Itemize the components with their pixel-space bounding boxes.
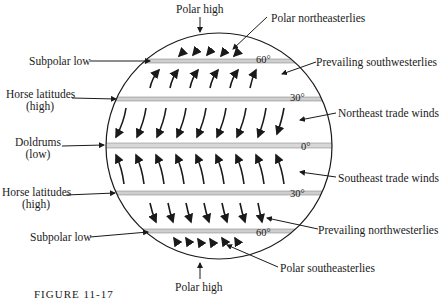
lat-60n: 60°	[256, 54, 271, 65]
label-prevailing-southwesterlies: Prevailing southwesterlies	[316, 56, 437, 68]
lat-60s: 60°	[256, 227, 271, 238]
label-sub: (low)	[14, 148, 62, 160]
lat-0: 0°	[301, 141, 310, 152]
lat-30s: 30°	[290, 188, 305, 199]
label-polar-high-south: Polar high	[175, 281, 223, 293]
label-polar-high-north: Polar high	[176, 3, 224, 15]
label-text: Doldrums	[14, 136, 62, 148]
label-sub: (high)	[6, 100, 74, 112]
figure-caption: FIGURE 11-17	[34, 288, 114, 300]
label-doldrums: Doldrums (low)	[14, 136, 62, 160]
label-polar-southeasterlies: Polar southeasterlies	[280, 262, 375, 274]
label-prevailing-northwesterlies: Prevailing northwesterlies	[318, 224, 438, 236]
label-subpolar-low-south: Subpolar low	[30, 231, 92, 243]
label-text: Horse latitudes	[6, 88, 74, 100]
label-horse-latitudes-north: Horse latitudes (high)	[6, 88, 74, 112]
label-northeast-trade-winds: Northeast trade winds	[338, 107, 439, 119]
label-southeast-trade-winds: Southeast trade winds	[338, 172, 439, 184]
label-text: Horse latitudes	[2, 186, 70, 198]
label-subpolar-low-north: Subpolar low	[29, 55, 91, 67]
lat-30n: 30°	[290, 92, 305, 103]
label-horse-latitudes-south: Horse latitudes (high)	[2, 186, 70, 210]
label-sub: (high)	[2, 198, 70, 210]
label-polar-northeasterlies: Polar northeasterlies	[271, 12, 365, 24]
